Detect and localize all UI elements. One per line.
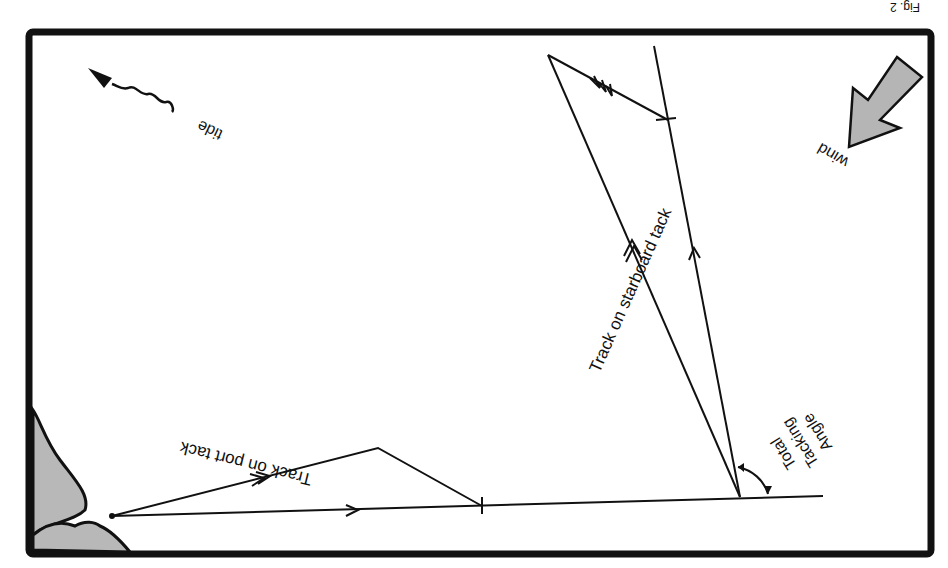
wind-arrow-icon xyxy=(849,57,922,147)
tacking-diagram: Fig. 2 Track on port tack Track on starb… xyxy=(0,0,948,568)
tide-label: tide xyxy=(194,117,225,143)
tacking-angle-label: Total Tacking Angle xyxy=(762,405,839,481)
coastline xyxy=(33,410,86,535)
tide-arrowhead-icon xyxy=(88,68,112,88)
tacking-angle-arc xyxy=(738,467,768,494)
svg-text:tide: tide xyxy=(194,117,225,143)
figure-caption: Fig. 2 xyxy=(890,0,920,14)
starboard-tack-label: Track on starboard tack xyxy=(586,205,676,376)
svg-text:wind: wind xyxy=(814,140,852,172)
tide-wavy-arrow-icon xyxy=(112,84,173,112)
diagram-frame xyxy=(29,32,931,554)
wind-label: wind xyxy=(814,140,852,172)
course-line xyxy=(654,46,740,497)
arc-arrow-icon xyxy=(738,463,744,472)
tick-mark-2 xyxy=(656,118,676,120)
svg-text:Track on starboard tack: Track on starboard tack xyxy=(586,205,676,376)
direction-arrow-icon xyxy=(346,505,358,516)
coastline-lower xyxy=(33,522,130,552)
arc-arrow-icon-2 xyxy=(764,486,772,494)
svg-text:Fig. 2: Fig. 2 xyxy=(890,0,920,14)
